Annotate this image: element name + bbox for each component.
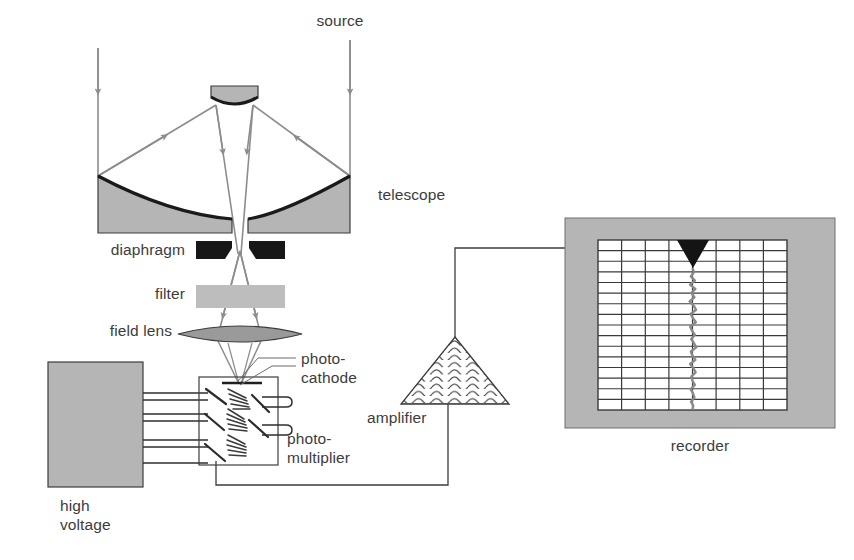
high-voltage-wires: [143, 393, 208, 463]
label-photocathode-line2: cathode: [301, 369, 357, 387]
figure-canvas: source telescope diaphragm filter field …: [0, 0, 854, 560]
recorder-component: [565, 218, 835, 428]
high-voltage-box: [48, 362, 143, 487]
label-photomultiplier-line2: multiplier: [287, 449, 350, 467]
label-diaphragm: diaphragm: [0, 241, 185, 259]
amplifier-component: [401, 337, 509, 404]
label-amplifier: amplifier: [367, 409, 426, 427]
label-field-lens: field lens: [0, 322, 172, 340]
label-high-voltage-line1: high: [60, 497, 90, 515]
electron-cascade: [227, 389, 250, 456]
dynode-plates: [205, 389, 269, 461]
signal-wire-amplifier-to-recorder: [455, 248, 565, 337]
telescope-secondary-mirror: [211, 86, 258, 104]
label-high-voltage-line2: voltage: [60, 516, 111, 534]
label-recorder: recorder: [640, 437, 760, 455]
ray-primary-to-secondary-left: [98, 105, 216, 176]
label-photocathode-line1: photo-: [301, 350, 346, 368]
label-photomultiplier-line1: photo-: [287, 430, 332, 448]
label-telescope: telescope: [378, 186, 445, 204]
field-lens-component: [178, 326, 302, 342]
label-source: source: [305, 12, 375, 30]
telescope-primary-mirror-right: [248, 176, 350, 233]
filter-component: [196, 285, 285, 308]
telescope-primary-mirror-left: [98, 176, 232, 233]
photometer-schematic: [0, 0, 854, 560]
label-filter: filter: [0, 285, 185, 303]
ray-primary-to-secondary-right: [253, 105, 350, 176]
